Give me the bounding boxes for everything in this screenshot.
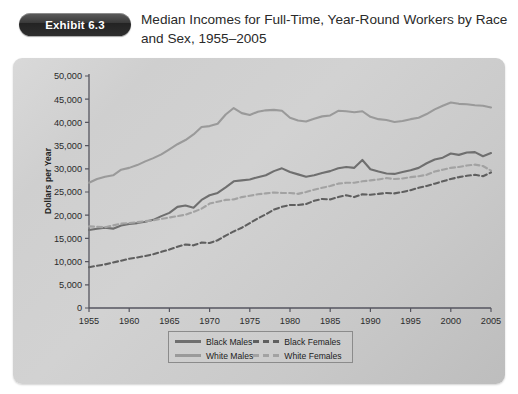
svg-text:1990: 1990 (360, 316, 380, 326)
svg-text:1985: 1985 (320, 316, 340, 326)
svg-text:2005: 2005 (481, 316, 501, 326)
svg-text:15,000: 15,000 (54, 234, 82, 244)
legend-swatch-white-females (253, 349, 284, 363)
legend-label-black-males: Black Males (206, 335, 253, 349)
legend-swatch-black-females (253, 335, 284, 349)
svg-text:2000: 2000 (441, 316, 461, 326)
svg-text:5,000: 5,000 (59, 280, 82, 290)
legend-row: Black Males Black Females (175, 335, 342, 349)
svg-text:10,000: 10,000 (54, 257, 82, 267)
legend-label-black-females: Black Females (284, 335, 341, 349)
svg-text:1980: 1980 (280, 316, 300, 326)
exhibit-badge: Exhibit 6.3 (19, 13, 131, 36)
figure-header: Exhibit 6.3 Median Incomes for Full-Time… (0, 0, 518, 58)
legend-swatch-black-males (175, 335, 206, 349)
chart-legend: Black Males Black Females White Males Wh… (168, 331, 353, 363)
svg-text:1965: 1965 (159, 316, 179, 326)
figure-title: Median Incomes for Full-Time, Year-Round… (141, 11, 511, 49)
svg-text:25,000: 25,000 (54, 187, 82, 197)
svg-text:1970: 1970 (199, 316, 219, 326)
svg-text:40,000: 40,000 (54, 118, 82, 128)
svg-text:30,000: 30,000 (54, 164, 82, 174)
legend-swatch-white-males (175, 349, 206, 363)
y-axis-label: Dollars per Year (43, 136, 53, 226)
svg-text:1955: 1955 (79, 316, 99, 326)
svg-text:1975: 1975 (240, 316, 260, 326)
svg-text:20,000: 20,000 (54, 211, 82, 221)
legend-row: White Males White Females (175, 349, 342, 363)
svg-text:1995: 1995 (400, 316, 420, 326)
legend-label-white-males: White Males (206, 349, 253, 363)
svg-text:35,000: 35,000 (54, 141, 82, 151)
exhibit-figure: Exhibit 6.3 Median Incomes for Full-Time… (0, 0, 518, 394)
svg-text:1960: 1960 (119, 316, 139, 326)
svg-text:45,000: 45,000 (54, 95, 82, 105)
svg-text:0: 0 (77, 303, 82, 313)
svg-text:50,000: 50,000 (54, 71, 82, 81)
legend-label-white-females: White Females (284, 349, 341, 363)
legend-table: Black Males Black Females White Males Wh… (175, 335, 342, 363)
